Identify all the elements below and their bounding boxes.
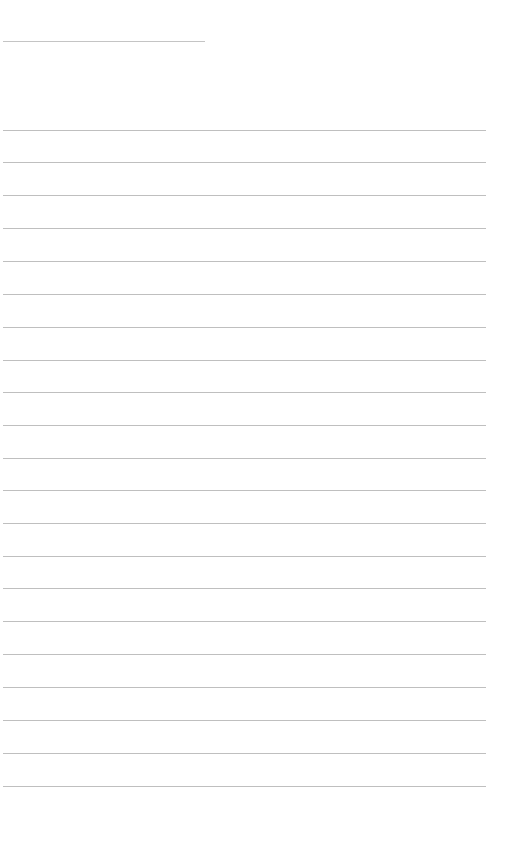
- ruled-line: [3, 786, 486, 787]
- ruled-line: [3, 360, 486, 361]
- ruled-line: [3, 720, 486, 721]
- ruled-line: [3, 130, 486, 131]
- ruled-line: [3, 195, 486, 196]
- ruled-line: [3, 162, 486, 163]
- ruled-line: [3, 490, 486, 491]
- ruled-line: [3, 654, 486, 655]
- ruled-line: [3, 621, 486, 622]
- ruled-line: [3, 228, 486, 229]
- lined-paper-sheet: [0, 0, 510, 845]
- ruled-line: [3, 261, 486, 262]
- ruled-line: [3, 294, 486, 295]
- ruled-line: [3, 753, 486, 754]
- ruled-line: [3, 588, 486, 589]
- ruled-line: [3, 425, 486, 426]
- ruled-line: [3, 327, 486, 328]
- ruled-line: [3, 687, 486, 688]
- ruled-line: [3, 392, 486, 393]
- ruled-line: [3, 458, 486, 459]
- header-rule-line: [3, 41, 205, 42]
- ruled-line: [3, 556, 486, 557]
- ruled-line: [3, 523, 486, 524]
